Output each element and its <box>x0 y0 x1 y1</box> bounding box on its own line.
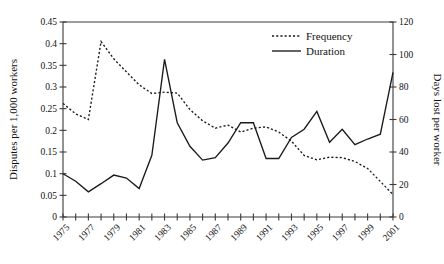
x-axis-tick-label: 1991 <box>254 222 275 243</box>
x-axis-tick-label: 1975 <box>51 222 72 243</box>
x-axis-tick-label: 1985 <box>178 222 199 243</box>
y-axis-tick-label: 0.4 <box>45 39 57 49</box>
y-axis-tick-label: 0.1 <box>45 169 57 179</box>
y2-axis-tick-label: 40 <box>399 147 409 157</box>
y2-axis-tick-label: 100 <box>399 50 414 60</box>
series-line-frequency <box>63 42 393 195</box>
y-axis-tick-label: 0.15 <box>40 147 57 157</box>
y-axis-tick-label: 0 <box>52 212 57 222</box>
x-axis-tick-label: 1995 <box>305 222 326 243</box>
y2-axis-tick-label: 20 <box>399 180 409 190</box>
dual-axis-line-chart: 00.050.10.150.20.250.30.350.40.450204060… <box>0 0 444 264</box>
y-axis-title: Disputes per 1,000 workers <box>7 59 19 180</box>
x-axis-tick-label: 1989 <box>229 222 250 243</box>
y-axis-tick-label: 0.25 <box>40 104 57 114</box>
chart-container: 00.050.10.150.20.250.30.350.40.450204060… <box>0 0 444 264</box>
y2-axis-tick-label: 80 <box>399 82 409 92</box>
x-axis-tick-label: 1993 <box>279 222 300 243</box>
y-axis-tick-label: 0.35 <box>40 61 57 71</box>
y-axis-tick-label: 0.2 <box>45 126 57 136</box>
y-axis-tick-label: 0.45 <box>40 17 57 27</box>
legend-label-duration: Duration <box>306 45 346 57</box>
x-axis-tick-label: 1999 <box>356 222 377 243</box>
y2-axis-tick-label: 0 <box>399 212 404 222</box>
y2-axis-title: Days lost per worker <box>432 74 444 166</box>
x-axis-tick-label: 1981 <box>127 222 148 243</box>
x-axis-tick-label: 1987 <box>203 222 224 243</box>
y2-axis-tick-label: 120 <box>399 17 414 27</box>
legend-label-frequency: Frequency <box>306 30 353 42</box>
y2-axis-tick-label: 60 <box>399 115 409 125</box>
y-axis-tick-label: 0.3 <box>45 82 57 92</box>
x-axis-tick-label: 2001 <box>381 222 402 243</box>
x-axis-tick-label: 1977 <box>76 222 97 243</box>
x-axis-tick-label: 1979 <box>102 222 123 243</box>
x-axis-tick-label: 1997 <box>330 222 351 243</box>
y-axis-tick-label: 0.05 <box>40 191 57 201</box>
x-axis-tick-label: 1983 <box>152 222 173 243</box>
